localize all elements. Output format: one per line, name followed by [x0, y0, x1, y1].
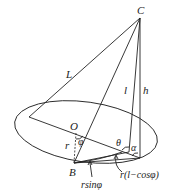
- label-O: O: [70, 120, 78, 132]
- label-theta: θ: [116, 137, 121, 148]
- label-l: l: [124, 84, 127, 96]
- label-B: B: [69, 166, 76, 178]
- theta-angle-arc: [122, 147, 129, 150]
- diameter-line: [29, 117, 140, 158]
- label-L: L: [65, 68, 72, 80]
- label-C: C: [137, 4, 145, 16]
- label-r-one-minus-cos: r(l−cosφ): [120, 169, 160, 181]
- cone-diagram: C L l h O r φ θ α B rsinφ r(l−cosφ): [0, 0, 169, 195]
- label-rsinphi: rsinφ: [81, 179, 103, 190]
- label-h: h: [143, 84, 149, 96]
- slant-line-L: [29, 18, 140, 117]
- base-ellipse: [11, 92, 162, 171]
- label-phi: φ: [78, 136, 84, 147]
- label-r: r: [65, 139, 70, 151]
- label-alpha: α: [131, 142, 137, 153]
